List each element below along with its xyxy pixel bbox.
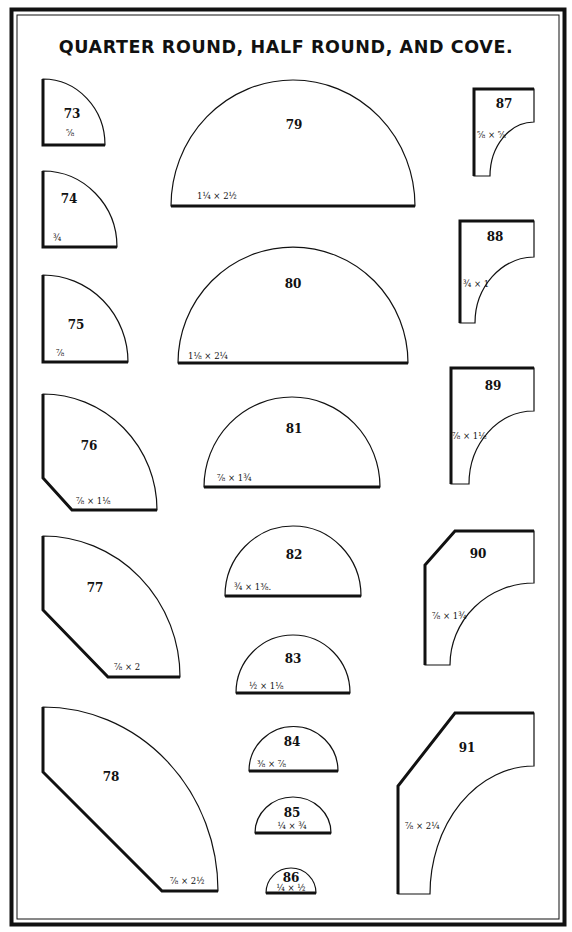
profile-84: 84 ⅜ × ⅞ xyxy=(249,727,338,771)
profile-dimension: ¼ × ¾ xyxy=(277,821,306,831)
profile-dimension: ⅝ × ⅝ xyxy=(477,130,507,140)
profile-number: 90 xyxy=(470,547,487,561)
profile-dimension: ¾ xyxy=(53,233,61,243)
profile-dimension: ⅞ × 2 xyxy=(114,662,140,672)
profile-dimension: ⅞ × 1⅛ xyxy=(76,496,111,506)
profile-dimension: ¾ × 1⅜. xyxy=(234,582,271,592)
profile-80: 80 1⅛ × 2¼ xyxy=(178,247,408,363)
profile-number: 88 xyxy=(487,230,504,244)
profile-number: 80 xyxy=(285,277,302,291)
profile-82: 82 ¾ × 1⅜. xyxy=(225,526,361,596)
profile-85: 85 ¼ × ¾ xyxy=(255,797,331,833)
profile-89: 89 ⅞ × 1⅛ xyxy=(451,368,534,484)
profile-number: 85 xyxy=(284,806,301,820)
profile-number: 87 xyxy=(496,97,513,111)
profile-dimension: ⅞ × 1⅛ xyxy=(452,431,487,441)
profile-number: 82 xyxy=(286,548,303,562)
profile-dimension: ¾ × 1 xyxy=(463,279,489,289)
profile-number: 73 xyxy=(64,107,81,121)
profile-number: 75 xyxy=(68,318,85,332)
profile-91: 91 ⅞ × 2¼ xyxy=(398,713,534,894)
profile-86: 86 ¼ × ½ xyxy=(266,868,316,893)
profile-dimension: ⅜ × ⅞ xyxy=(257,759,287,769)
profile-number: 91 xyxy=(459,741,476,755)
profile-number: 78 xyxy=(103,770,120,784)
profile-81: 81 ⅞ × 1¾ xyxy=(204,397,380,487)
profile-76: 76 ⅞ × 1⅛ xyxy=(43,394,157,510)
profile-number: 81 xyxy=(286,422,303,436)
profile-dimension: ⅞ xyxy=(56,348,65,358)
profile-75: 75 ⅞ xyxy=(43,275,128,362)
profile-73: 73 ⅝ xyxy=(43,79,105,145)
profile-90: 90 ⅞ × 1¾ xyxy=(425,531,534,665)
profile-88: 88 ¾ × 1 xyxy=(460,221,534,323)
profile-78: 78 ⅞ × 2½ xyxy=(43,707,218,891)
profile-number: 89 xyxy=(485,379,502,393)
profile-87: 87 ⅝ × ⅝ xyxy=(474,89,534,176)
profile-dimension: ⅞ × 2½ xyxy=(170,876,204,886)
profile-number: 76 xyxy=(81,439,98,453)
profile-dimension: ¼ × ½ xyxy=(276,883,305,893)
profile-number: 83 xyxy=(285,652,302,666)
profile-dimension: ⅝ xyxy=(66,128,75,138)
profile-number: 84 xyxy=(284,735,301,749)
profile-dimension: ⅞ × 1¾ xyxy=(217,473,251,483)
profile-74: 74 ¾ xyxy=(43,171,117,247)
profile-79: 79 1¼ × 2½ xyxy=(171,80,415,206)
profile-dimension: ½ × 1⅛ xyxy=(249,681,284,691)
profile-number: 74 xyxy=(61,192,78,206)
profile-dimension: ⅞ × 1¾ xyxy=(432,611,466,621)
profile-dimension: 1⅛ × 2¼ xyxy=(188,351,228,361)
profile-number: 79 xyxy=(286,118,303,132)
profile-dimension: ⅞ × 2¼ xyxy=(405,821,439,831)
page-title: QUARTER ROUND, HALF ROUND, AND COVE. xyxy=(59,37,513,57)
profile-77: 77 ⅞ × 2 xyxy=(43,536,180,677)
moulding-plate: QUARTER ROUND, HALF ROUND, AND COVE. 73 … xyxy=(0,0,572,932)
profile-number: 77 xyxy=(87,581,104,595)
profile-83: 83 ½ × 1⅛ xyxy=(236,635,350,693)
profile-dimension: 1¼ × 2½ xyxy=(197,191,237,201)
